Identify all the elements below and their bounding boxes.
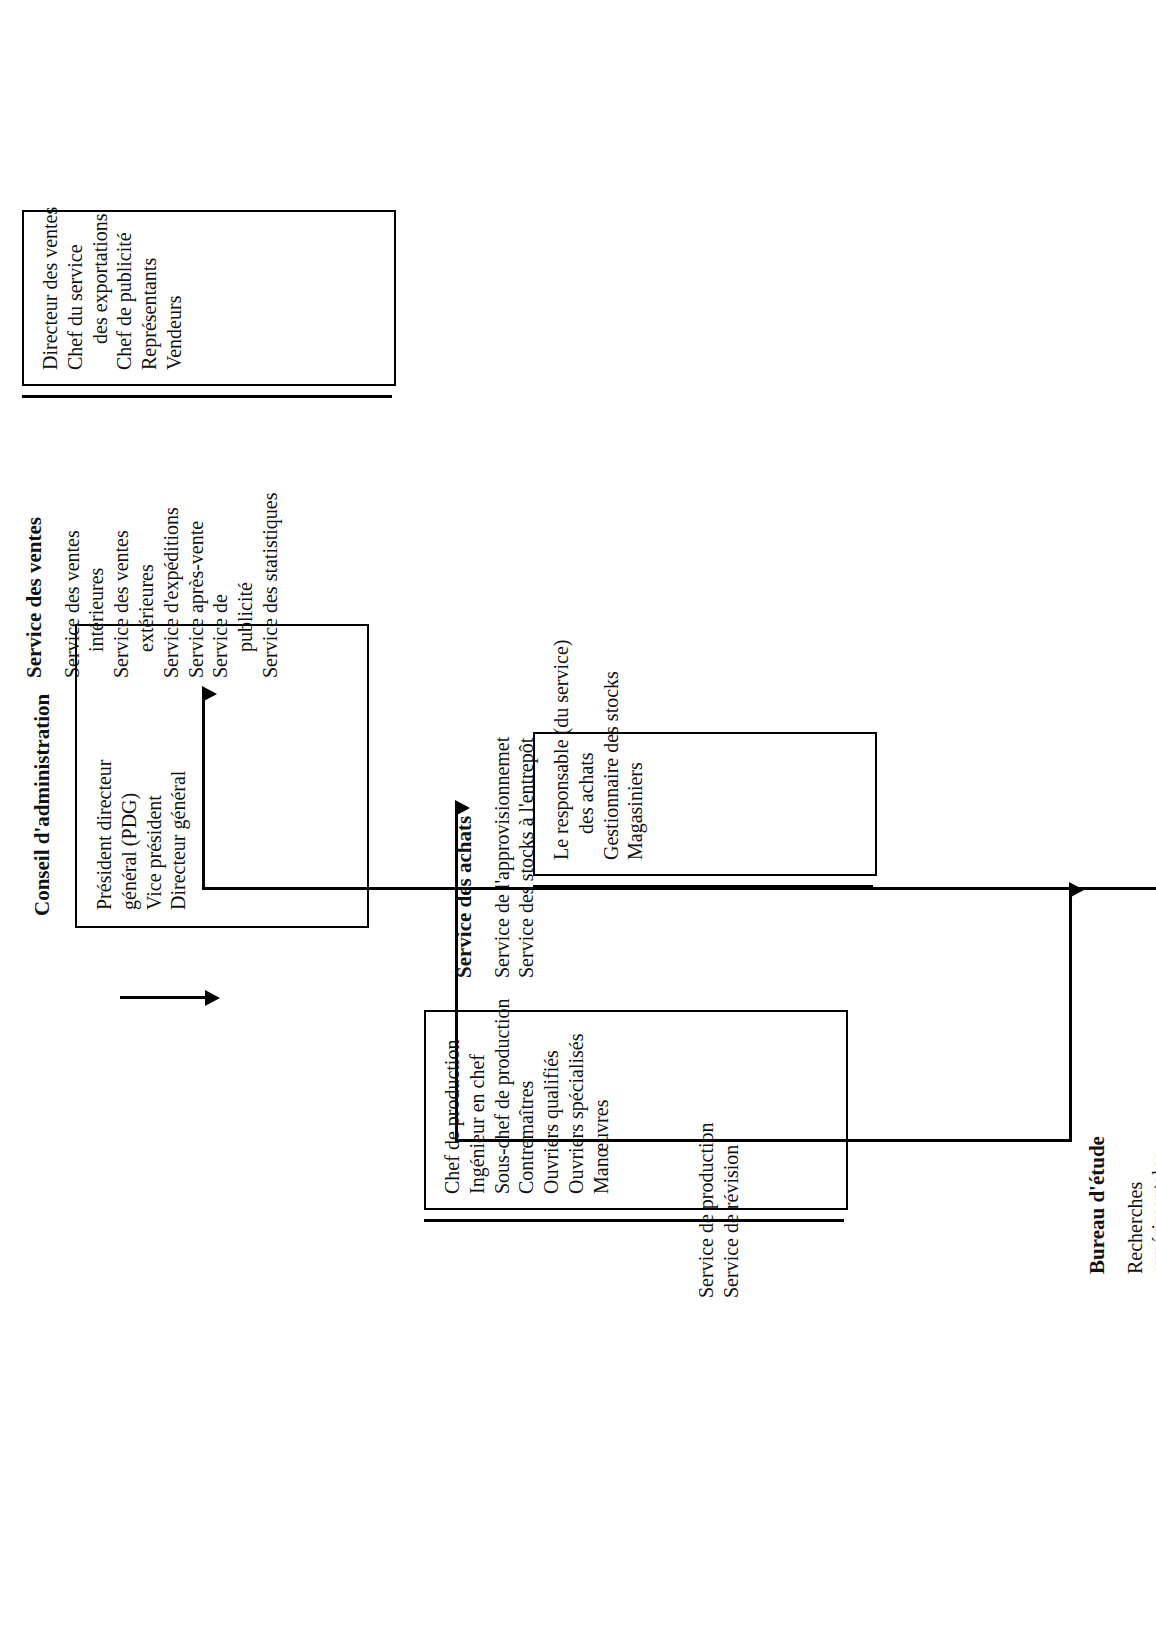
branch-etude-heading: Bureau d'étude [1085,1136,1111,1274]
staff-item: des exportations [88,207,113,370]
organigramme-canvas: Conseil d'administration Président direc… [0,0,1156,1638]
staff-item: Directeur des ventes [38,207,63,370]
arrow-etude-icon [1069,882,1084,898]
staff-item: des achats [574,640,599,860]
connector-ventes-riser [202,888,365,891]
service-item: extérieures [134,492,159,678]
stub-achats [533,886,873,889]
branch-achats: Service des achats Service de l'approvis… [452,737,539,978]
staff-item: Chef de publicité [112,207,137,370]
staff-item: Représentants [137,207,162,370]
service-item: Service après-vente [184,492,209,678]
root-member: général (PDG) [117,760,142,911]
staff-item: Magasiniers [623,640,648,860]
root-members-list: Président directeur général (PDG) Vice p… [92,760,191,911]
staff-item: Le responsable (du service) [549,640,574,860]
service-item: Service des statistiques [258,492,283,678]
branch-ventes: Service des ventes Service des ventes in… [22,492,283,678]
staff-item: Ingénieur en chef [465,998,490,1194]
branch-production-staff-list: Chef de production Ingénieur en chef Sou… [440,998,614,1194]
service-item: Service des ventes [60,492,85,678]
branch-ventes-heading: Service des ventes [22,492,48,678]
staff-item: Ouvriers qualifiés [539,998,564,1194]
staff-item: Sous-chef de production [490,998,515,1194]
root-member: Président directeur [92,760,117,911]
service-item: Recherches [1123,1136,1148,1274]
root-heading-text: Conseil d'administration [30,694,56,916]
organigramme-rotated-container: Conseil d'administration Président direc… [0,0,1156,1638]
connector-achats [120,997,208,1000]
staff-item: Vendeurs [162,207,187,370]
stub-ventes [22,396,392,399]
service-item: publicité [233,492,258,678]
branch-achats-services: Service de l'approvisionnemet Service de… [490,737,540,978]
staff-item: Gestionnaire des stocks [599,640,624,860]
service-item: Service des ventes [109,492,134,678]
root-member: Directeur général [166,760,191,911]
service-item: expérimentales [1147,1136,1156,1274]
branch-achats-heading: Service des achats [452,737,478,978]
service-item: intérieures [84,492,109,678]
branch-etude-services: Recherches expérimentales [1123,1136,1156,1274]
arrow-ventes-icon [202,686,217,702]
staff-item: Chef de production [440,998,465,1194]
staff-item: Chef du service [63,207,88,370]
staff-item: Contremaîtres [514,998,539,1194]
connector-etude [1069,888,1072,1142]
stub-production [424,1220,844,1223]
branch-achats-staff-list: Le responsable (du service) des achats G… [549,640,648,860]
root-member: Vice président [142,760,167,911]
service-item: Service de l'approvisionnemet [490,737,515,978]
branch-ventes-services: Service des ventes intérieures Service d… [60,492,283,678]
branch-ventes-staff-list: Directeur des ventes Chef du service des… [38,207,187,370]
staff-item: Manœuvres [589,998,614,1194]
service-item: Service de [208,492,233,678]
service-item: Service d'expéditions [159,492,184,678]
staff-item: Ouvriers spécialisés [564,998,589,1194]
connector-ventes [202,694,205,890]
branch-etude: Bureau d'étude Recherches expérimentales [1085,1136,1156,1274]
root-heading-conseil: Conseil d'administration [30,694,56,916]
